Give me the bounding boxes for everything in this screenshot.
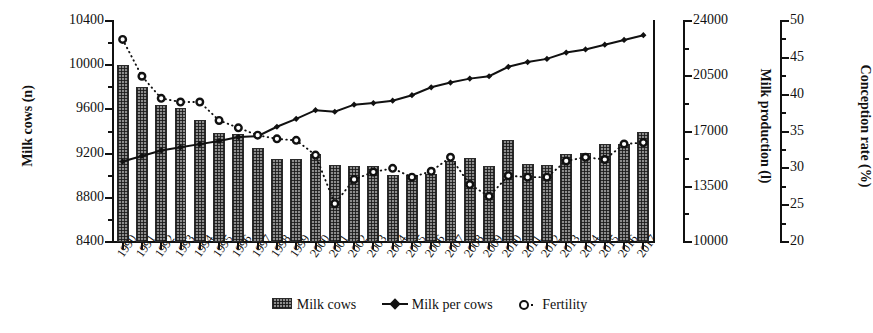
axis-tick-right — [782, 94, 789, 96]
axis-tick-left — [105, 241, 112, 243]
bar-2015 — [599, 144, 611, 242]
bar-2017 — [637, 132, 649, 243]
axis-minor-tick-right — [782, 75, 786, 77]
axis-tick-label-right: 25 — [790, 196, 804, 212]
axis-tick-right — [782, 131, 789, 133]
axis-minor-tick-middle — [685, 158, 689, 160]
axis-tick-label-right: 20 — [790, 233, 804, 249]
axis-tick-middle — [685, 131, 692, 133]
axis-tick-left — [105, 64, 112, 66]
legend-item-milk-per-cows[interactable]: Milk per cows — [378, 296, 493, 313]
axis-minor-tick-right — [782, 38, 786, 40]
axis-tick-label-right: 30 — [790, 159, 804, 175]
axis-tick-label-left: 9200 — [44, 145, 104, 161]
axis-tick-left — [105, 20, 112, 22]
axis-minor-tick-right — [782, 112, 786, 114]
axis-tick-label-middle: 10000 — [693, 233, 728, 249]
axis-tick-middle — [685, 75, 692, 77]
bar-1999 — [290, 159, 302, 242]
axis-tick-left — [105, 153, 112, 155]
legend-item-fertility[interactable]: Fertility — [514, 296, 587, 313]
plot-area — [113, 21, 653, 242]
bar-2016 — [618, 144, 630, 242]
axis-minor-tick-middle — [685, 48, 689, 50]
axis-tick-label-middle: 17000 — [693, 123, 728, 139]
axis-minor-tick-left — [108, 175, 112, 177]
axis-tick-left — [105, 197, 112, 199]
bar-2011 — [522, 164, 534, 242]
axis-tick-label-left: 10400 — [44, 12, 104, 28]
bar-2000 — [310, 154, 322, 242]
axis-tick-right — [782, 241, 789, 243]
bar-1992 — [155, 105, 167, 242]
bar-swatch-icon — [272, 298, 292, 309]
bar-2001 — [329, 165, 341, 242]
axis-minor-tick-left — [108, 86, 112, 88]
y-axis-left-title: Milk cows (n) — [20, 36, 36, 216]
bar-2007 — [445, 161, 457, 242]
bar-2013 — [560, 154, 572, 242]
legend-label-milk-per-cows: Milk per cows — [412, 297, 493, 312]
axis-tick-label-left: 10000 — [44, 56, 104, 72]
axis-tick-label-left: 9600 — [44, 100, 104, 116]
y-axis-right-title: Conception rate (%) — [857, 21, 873, 231]
bar-2009 — [483, 166, 495, 242]
bar-1990 — [117, 65, 129, 242]
axis-minor-tick-middle — [685, 213, 689, 215]
plot-right-spine — [653, 20, 655, 243]
axis-tick-right — [782, 57, 789, 59]
axis-minor-tick-right — [782, 223, 786, 225]
bar-2010 — [502, 140, 514, 242]
axis-tick-left — [105, 108, 112, 110]
bar-1993 — [175, 108, 187, 242]
bar-2014 — [580, 153, 592, 242]
legend-label-fertility: Fertility — [542, 297, 587, 312]
axis-minor-tick-right — [782, 186, 786, 188]
bar-1996 — [232, 134, 244, 242]
axis-tick-label-left: 8800 — [44, 189, 104, 205]
bar-1998 — [271, 159, 283, 242]
bar-2012 — [541, 165, 553, 242]
axis-tick-label-middle: 24000 — [693, 12, 728, 28]
bar-1995 — [213, 133, 225, 242]
bar-1994 — [194, 120, 206, 242]
legend-label-milk-cows: Milk cows — [297, 297, 357, 312]
axis-tick-middle — [685, 186, 692, 188]
axis-tick-label-middle: 20500 — [693, 67, 728, 83]
axis-tick-middle — [685, 20, 692, 22]
axis-tick-label-right: 50 — [790, 12, 804, 28]
bar-2002 — [348, 166, 360, 242]
axis-minor-tick-left — [108, 219, 112, 221]
bar-2008 — [464, 158, 476, 242]
bar-1997 — [252, 148, 264, 242]
axis-minor-tick-middle — [685, 103, 689, 105]
bar-1991 — [136, 87, 148, 242]
chart-legend: Milk cows Milk per cows Fertility — [0, 296, 859, 313]
axis-tick-label-right: 35 — [790, 123, 804, 139]
axis-tick-right — [782, 20, 789, 22]
axis-tick-right — [782, 167, 789, 169]
y-axis-middle-title: Milk production (l) — [757, 21, 773, 231]
legend-item-milk-cows[interactable]: Milk cows — [272, 296, 357, 313]
axis-tick-label-middle: 13500 — [693, 178, 728, 194]
bar-2003 — [367, 166, 379, 242]
axis-tick-label-right: 45 — [790, 49, 804, 65]
axis-tick-middle — [685, 241, 692, 243]
line-diamond-swatch-icon — [382, 299, 408, 309]
axis-minor-tick-right — [782, 149, 786, 151]
dotted-circle-swatch-icon — [518, 299, 538, 309]
axis-minor-tick-left — [108, 42, 112, 44]
axis-tick-label-right: 40 — [790, 86, 804, 102]
axis-tick-label-left: 8400 — [44, 233, 104, 249]
axis-tick-right — [782, 204, 789, 206]
axis-minor-tick-left — [108, 131, 112, 133]
